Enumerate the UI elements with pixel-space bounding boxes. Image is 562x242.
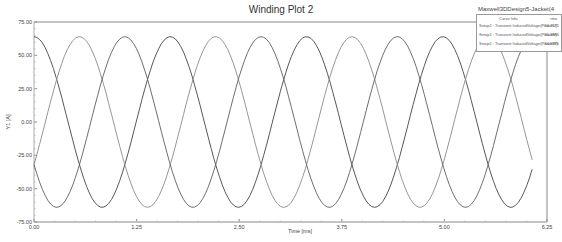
legend-entry[interactable]: Setup1 : Transient InducedVoltage(PhaseV… — [479, 32, 559, 39]
y-tick-label: -50.00 — [16, 186, 32, 192]
x-tick-label: 3.75 — [336, 224, 347, 230]
series-line — [34, 37, 532, 208]
x-tick-label: 5.00 — [439, 224, 450, 230]
legend-entry[interactable]: Setup1 : Transient InducedVoltage(PhaseW… — [479, 41, 559, 48]
y-tick-label: 75.00 — [18, 19, 32, 25]
y-tick-label: 0.00 — [21, 119, 32, 125]
legend[interactable]: Curve Info rms Setup1 : Transient Induce… — [476, 14, 562, 52]
y-tick-label: 50.00 — [18, 52, 32, 58]
series-line — [34, 37, 532, 208]
y-axis-label: Y1 [A] — [5, 114, 11, 129]
series-line — [34, 37, 532, 208]
legend-col-rms: rms — [550, 16, 557, 21]
y-tick-label: -25.00 — [16, 152, 32, 158]
legend-col-curve-info: Curve Info — [499, 16, 517, 21]
x-tick-label: 2.50 — [234, 224, 245, 230]
x-axis-label: Time [ms] — [288, 228, 312, 234]
y-tick-label: 25.00 — [18, 86, 32, 92]
x-tick-label: 1.25 — [131, 224, 142, 230]
legend-header: Maxwell3DDesign5-Jacket(4 — [478, 6, 554, 12]
legend-entry[interactable]: Setup1 : Transient InducedVoltage(PhaseU… — [479, 23, 559, 30]
x-tick-label: 6.25 — [542, 224, 553, 230]
y-tick-label: -75.00 — [16, 219, 32, 225]
